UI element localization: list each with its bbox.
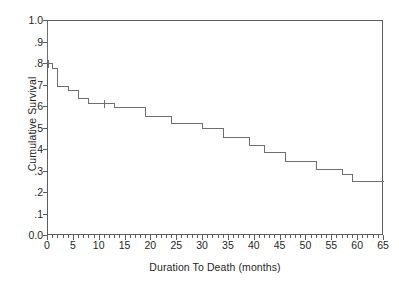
y-tick-label: .2 [9, 187, 43, 197]
y-tick-label: .8 [9, 58, 43, 68]
y-tick-label: 1.0 [9, 15, 43, 25]
y-tick-label: .6 [9, 101, 43, 111]
y-axis-tick-labels: 0.0.1.2.3.4.5.6.7.8.91.0 [0, 0, 43, 281]
x-tick-label: 65 [368, 240, 398, 251]
y-tick-label: .5 [9, 123, 43, 133]
x-axis-title: Duration To Death (months) [47, 261, 383, 273]
y-tick-label: .1 [9, 209, 43, 219]
y-tick-label: .4 [9, 144, 43, 154]
y-tick-label: .7 [9, 80, 43, 90]
x-axis-tick-labels: 05101520253035404550556065 [0, 240, 399, 256]
y-tick-label: .9 [9, 37, 43, 47]
y-tick-label: 0.0 [9, 230, 43, 240]
plot-area [47, 20, 383, 235]
y-tick-label: .3 [9, 166, 43, 176]
survival-chart-figure: Cumulative Survival 0.0.1.2.3.4.5.6.7.8.… [0, 0, 399, 281]
